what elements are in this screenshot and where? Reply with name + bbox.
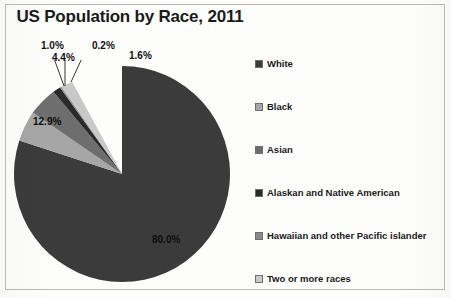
- legend-item-black: Black: [255, 101, 292, 113]
- legend-item-alaskan-native-american: Alaskan and Native American: [255, 187, 400, 199]
- pie-label-black: 12.9%: [33, 116, 61, 127]
- legend-label-two-or-more-races: Two or more races: [267, 274, 351, 284]
- legend-label-black: Black: [267, 102, 292, 112]
- pie-label-hawaiian-pacific-islander: 0.2%: [92, 40, 115, 51]
- pie-label-white: 80.0%: [152, 234, 180, 245]
- legend-swatch-two-or-more-races: [255, 275, 263, 283]
- legend-label-alaskan-native-american: Alaskan and Native American: [267, 188, 400, 198]
- legend-item-two-or-more-races: Two or more races: [255, 273, 351, 285]
- pie-svg: [8, 60, 240, 292]
- leader-lines: [52, 60, 83, 86]
- chart-title: US Population by Race, 2011: [10, 7, 250, 27]
- legend-swatch-hawaiian-pacific-islander: [255, 232, 263, 240]
- chart-legend: White Black Asian Alaskan and Native Ame…: [255, 58, 441, 278]
- legend-label-hawaiian-pacific-islander: Hawaiian and other Pacific islander: [267, 231, 426, 241]
- legend-item-asian: Asian: [255, 144, 293, 156]
- chart-image: US Population by Race, 2011: [0, 0, 451, 298]
- legend-item-white: White: [255, 58, 293, 70]
- legend-swatch-white: [255, 60, 263, 68]
- pie-label-two-or-more-races: 1.6%: [129, 50, 152, 61]
- legend-swatch-asian: [255, 146, 263, 154]
- pie-label-asian: 4.4%: [52, 52, 75, 63]
- legend-label-asian: Asian: [267, 145, 293, 155]
- legend-swatch-black: [255, 103, 263, 111]
- legend-swatch-alaskan-native-american: [255, 189, 263, 197]
- legend-label-white: White: [267, 59, 293, 69]
- legend-item-hawaiian-pacific-islander: Hawaiian and other Pacific islander: [255, 230, 426, 242]
- pie-label-alaskan-native-american: 1.0%: [41, 40, 64, 51]
- pie-chart-area: [8, 60, 240, 292]
